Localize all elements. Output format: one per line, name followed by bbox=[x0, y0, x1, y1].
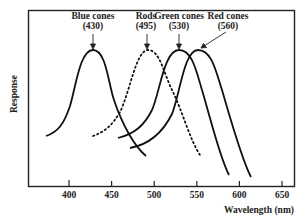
green-cones-peak: (530) bbox=[169, 21, 190, 32]
annotation-arrows bbox=[91, 32, 227, 49]
arrow-head-icon bbox=[201, 44, 207, 49]
plot-frame bbox=[29, 11, 295, 187]
x-tick-650: 650 bbox=[275, 190, 290, 200]
x-ticks bbox=[69, 180, 282, 186]
spectral-response-chart: 400 450 500 550 600 650 Wavelength (nm) … bbox=[0, 0, 305, 221]
rods-peak: (495) bbox=[136, 21, 157, 32]
x-tick-550: 550 bbox=[190, 190, 205, 200]
blue-cones-label: Blue cones bbox=[71, 11, 114, 21]
red-cones-curve bbox=[130, 50, 251, 177]
arrow-head-icon bbox=[145, 44, 150, 49]
x-axis-label: Wavelength (nm) bbox=[224, 205, 294, 216]
arrow-head-icon bbox=[177, 44, 182, 49]
green-cones-label: Green cones bbox=[154, 11, 204, 21]
rods-curve bbox=[93, 50, 200, 155]
blue-cones-peak: (430) bbox=[83, 21, 104, 32]
y-axis-label: Response bbox=[9, 75, 19, 113]
blue-cones-curve bbox=[46, 50, 146, 156]
x-tick-450: 450 bbox=[104, 190, 119, 200]
x-tick-600: 600 bbox=[232, 190, 247, 200]
arrow-head-icon bbox=[91, 44, 96, 49]
x-tick-400: 400 bbox=[62, 190, 77, 200]
x-tick-500: 500 bbox=[147, 190, 162, 200]
red-cones-label: Red cones bbox=[208, 11, 249, 21]
red-cones-peak: (560) bbox=[218, 21, 239, 32]
